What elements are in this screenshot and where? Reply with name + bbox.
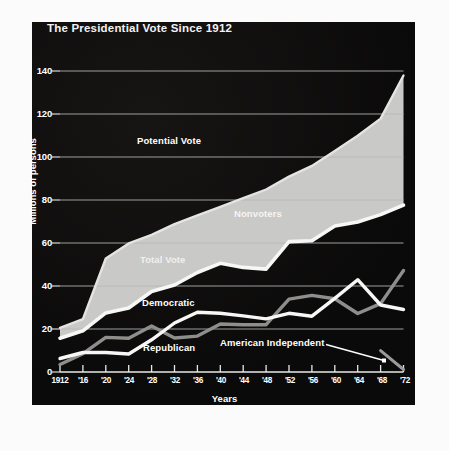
x-axis-ticks (60, 365, 404, 372)
y-tick-stubs (52, 71, 60, 372)
y-tick-label-140: 140 (22, 65, 52, 76)
annotation-potential-vote: Potential Vote (137, 135, 201, 146)
leader-line (326, 345, 384, 361)
x-axis-title: Years (0, 393, 449, 404)
annotation-nonvoters: Nonvoters (234, 208, 282, 219)
y-axis-title: Millions of persons (27, 122, 38, 242)
chart-panel: Potential Vote Nonvoters Total Vote Demo… (32, 22, 415, 405)
leader-endpoint-marker (382, 359, 386, 363)
y-tick-label-20: 20 (22, 323, 52, 334)
y-tick-label-40: 40 (22, 280, 52, 291)
annotation-american-independent: American Independent (220, 337, 324, 348)
x-tick-label-72: '72 (392, 376, 418, 385)
annotation-democratic: Democratic (142, 297, 195, 308)
nonvoters-area (60, 76, 404, 339)
american-independent-leader (326, 345, 386, 363)
annotation-total-vote: Total Vote (140, 254, 186, 265)
annotation-republican: Republican (143, 342, 195, 353)
nonvoters-band (60, 76, 404, 339)
chart-page: Potential Vote Nonvoters Total Vote Demo… (0, 0, 449, 451)
chart-title: The Presidential Vote Since 1912 (47, 22, 232, 34)
y-tick-label-120: 120 (22, 108, 52, 119)
